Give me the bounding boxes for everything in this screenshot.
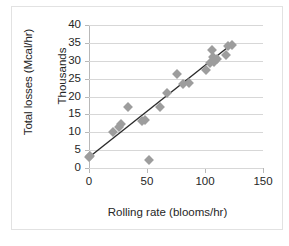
plot-area bbox=[89, 25, 263, 168]
gridline-horizontal bbox=[89, 168, 263, 169]
y-tick-label: 0 bbox=[55, 162, 81, 174]
x-tick-label: 50 bbox=[129, 176, 165, 188]
y-tick-label: 5 bbox=[55, 144, 81, 156]
gridline-horizontal bbox=[89, 97, 263, 98]
x-tick-mark bbox=[89, 169, 90, 173]
y-tick-mark bbox=[85, 43, 89, 44]
x-tick-label: 100 bbox=[187, 176, 223, 188]
y-tick-mark bbox=[85, 97, 89, 98]
x-tick-label: 0 bbox=[71, 176, 107, 188]
gridline-horizontal bbox=[89, 61, 263, 62]
y-tick-label: 35 bbox=[55, 37, 81, 49]
y-tick-mark bbox=[85, 114, 89, 115]
y-tick-label: 10 bbox=[55, 126, 81, 138]
y-tick-mark bbox=[85, 61, 89, 62]
x-tick-mark bbox=[147, 169, 148, 173]
gridline-horizontal bbox=[89, 25, 263, 26]
x-axis-title: Rolling rate (blooms/hr) bbox=[60, 206, 275, 218]
x-tick-mark bbox=[205, 169, 206, 173]
y-tick-label: 15 bbox=[55, 108, 81, 120]
chart-figure: Total losses (Mcal/hr) Thousands Rolling… bbox=[0, 0, 289, 246]
y-tick-mark bbox=[85, 25, 89, 26]
y-tick-mark bbox=[85, 132, 89, 133]
gridline-horizontal bbox=[89, 150, 263, 151]
y-axis-title: Total losses (Mcal/hr) bbox=[22, 2, 34, 162]
y-tick-label: 30 bbox=[55, 55, 81, 67]
y-tick-label: 25 bbox=[55, 73, 81, 85]
y-tick-mark bbox=[85, 79, 89, 80]
x-tick-label: 150 bbox=[245, 176, 281, 188]
gridline-horizontal bbox=[89, 43, 263, 44]
bottom-text-fragment bbox=[6, 236, 286, 245]
y-tick-label: 40 bbox=[55, 19, 81, 31]
x-tick-mark bbox=[263, 169, 264, 173]
gridline-horizontal bbox=[89, 114, 263, 115]
y-tick-label: 20 bbox=[55, 91, 81, 103]
